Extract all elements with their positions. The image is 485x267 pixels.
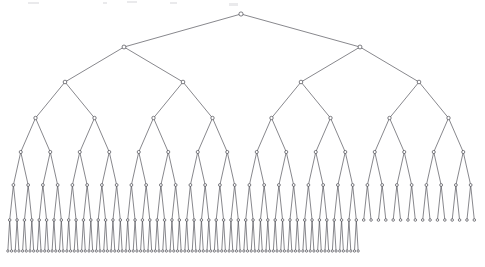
tree-node bbox=[53, 219, 56, 222]
tree-node bbox=[292, 184, 295, 187]
tree-node bbox=[130, 184, 133, 187]
tree-leaf-node bbox=[261, 250, 263, 252]
tree-node bbox=[274, 219, 277, 222]
tree-leaf-node bbox=[198, 250, 200, 252]
tree-node bbox=[444, 219, 447, 222]
tree-node bbox=[447, 116, 450, 119]
tree-node bbox=[392, 219, 395, 222]
tree-node bbox=[156, 219, 159, 222]
tree-node bbox=[137, 150, 140, 153]
tree-node bbox=[451, 219, 454, 222]
tree-node bbox=[244, 219, 247, 222]
tree-leaf-node bbox=[269, 250, 271, 252]
tree-leaf-node bbox=[44, 250, 46, 252]
tree-node bbox=[90, 219, 93, 222]
tree-node bbox=[381, 184, 384, 187]
tree-leaf-node bbox=[36, 250, 38, 252]
tree-node bbox=[97, 219, 100, 222]
tree-node bbox=[277, 184, 280, 187]
tree-node bbox=[174, 184, 177, 187]
tree-node bbox=[185, 219, 188, 222]
tree-leaf-node bbox=[128, 250, 130, 252]
tree-leaf-node bbox=[147, 250, 149, 252]
tree-node bbox=[167, 150, 170, 153]
tree-node bbox=[373, 150, 376, 153]
tree-node bbox=[75, 219, 78, 222]
tree-node bbox=[159, 184, 162, 187]
tree-node bbox=[344, 150, 347, 153]
tree-leaf-node bbox=[217, 250, 219, 252]
tree-node bbox=[211, 116, 214, 119]
tree-node bbox=[38, 219, 41, 222]
tree-leaf-node bbox=[29, 250, 31, 252]
tree-node bbox=[270, 116, 273, 119]
tree-leaf-node bbox=[254, 250, 256, 252]
tree-leaf-node bbox=[235, 250, 237, 252]
tree-node bbox=[34, 116, 37, 119]
tree-node bbox=[204, 184, 207, 187]
tree-leaf-node bbox=[66, 250, 68, 252]
tree-leaf-node bbox=[62, 250, 64, 252]
tree-node bbox=[248, 184, 251, 187]
figure-background bbox=[0, 0, 485, 267]
tree-node bbox=[395, 184, 398, 187]
tree-leaf-node bbox=[243, 250, 245, 252]
tree-node bbox=[296, 219, 299, 222]
tree-leaf-node bbox=[202, 250, 204, 252]
tree-leaf-node bbox=[106, 250, 108, 252]
tree-leaf-node bbox=[187, 250, 189, 252]
tree-node bbox=[458, 219, 461, 222]
tree-leaf-node bbox=[357, 250, 359, 252]
tree-node bbox=[8, 219, 11, 222]
tree-node bbox=[200, 219, 203, 222]
tree-node bbox=[322, 184, 325, 187]
tree-node bbox=[93, 116, 96, 119]
tree-leaf-node bbox=[110, 250, 112, 252]
tree-node bbox=[299, 80, 303, 84]
tree-leaf-node bbox=[294, 250, 296, 252]
tree-leaf-node bbox=[47, 250, 49, 252]
tree-leaf-node bbox=[316, 250, 318, 252]
tree-leaf-node bbox=[265, 250, 267, 252]
tree-node bbox=[326, 219, 329, 222]
tree-node bbox=[388, 116, 391, 119]
tree-leaf-node bbox=[250, 250, 252, 252]
tree-leaf-node bbox=[121, 250, 123, 252]
tree-node bbox=[336, 184, 339, 187]
tree-leaf-node bbox=[213, 250, 215, 252]
tree-leaf-node bbox=[224, 250, 226, 252]
tree-leaf-node bbox=[92, 250, 94, 252]
tree-leaf-node bbox=[191, 250, 193, 252]
tree-node bbox=[318, 219, 321, 222]
tree-leaf-node bbox=[232, 250, 234, 252]
tree-leaf-node bbox=[324, 250, 326, 252]
tree-leaf-node bbox=[328, 250, 330, 252]
tree-node bbox=[432, 150, 435, 153]
tree-node bbox=[348, 219, 351, 222]
tree-node bbox=[67, 219, 70, 222]
tree-leaf-node bbox=[176, 250, 178, 252]
tree-node bbox=[469, 184, 472, 187]
tree-node bbox=[119, 219, 122, 222]
tree-leaf-node bbox=[302, 250, 304, 252]
tree-node bbox=[414, 219, 417, 222]
tree-leaf-node bbox=[276, 250, 278, 252]
tree-leaf-node bbox=[246, 250, 248, 252]
tree-node bbox=[410, 184, 413, 187]
tree-leaf-node bbox=[239, 250, 241, 252]
tree-node bbox=[358, 45, 362, 49]
tree-leaf-node bbox=[184, 250, 186, 252]
tree-leaf-node bbox=[69, 250, 71, 252]
tree-leaf-node bbox=[51, 250, 53, 252]
tree-leaf-node bbox=[320, 250, 322, 252]
tree-node bbox=[86, 184, 89, 187]
tree-node bbox=[218, 184, 221, 187]
tree-leaf-node bbox=[21, 250, 23, 252]
tree-leaf-node bbox=[353, 250, 355, 252]
tree-leaf-node bbox=[151, 250, 153, 252]
tree-leaf-node bbox=[305, 250, 307, 252]
tree-leaf-node bbox=[221, 250, 223, 252]
tree-node bbox=[100, 184, 103, 187]
tree-node bbox=[163, 219, 166, 222]
tree-leaf-node bbox=[228, 250, 230, 252]
